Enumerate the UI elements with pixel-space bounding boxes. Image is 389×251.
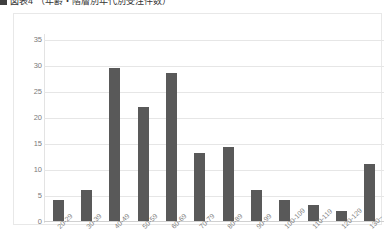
y-axis-tick-label: 15: [16, 140, 42, 148]
gridline: [44, 170, 384, 171]
gridline: [44, 144, 384, 145]
plot-frame: 05101520253035 20-2930-3940-4950-5960-69…: [13, 13, 382, 225]
chart-title: 図表4 （年齢・階層別年代別受注件数）: [0, 0, 389, 7]
chart-figure: 図表4 （年齢・階層別年代別受注件数） 05101520253035 20-29…: [0, 0, 389, 251]
bar: [109, 68, 120, 221]
bar: [251, 190, 262, 221]
bar: [194, 153, 205, 221]
y-axis-tick-label: 10: [16, 166, 42, 174]
bar: [138, 107, 149, 221]
gridline: [44, 92, 384, 93]
gridline: [44, 66, 384, 67]
bar: [364, 164, 375, 221]
chart-title-text: 図表4 （年齢・階層別年代別受注件数）: [10, 0, 171, 6]
plot-area: [44, 40, 384, 222]
gridline: [44, 118, 384, 119]
y-axis-tick-labels: 05101520253035: [14, 14, 42, 226]
y-axis-tick-label: 5: [16, 192, 42, 200]
y-axis-tick-label: 30: [16, 62, 42, 70]
bar: [223, 147, 234, 221]
gridline: [44, 196, 384, 197]
y-axis-tick-label: 25: [16, 88, 42, 96]
square-bullet-icon: [0, 0, 7, 5]
y-axis-tick-label: 35: [16, 36, 42, 44]
bar: [166, 73, 177, 221]
y-axis-tick-label: 0: [16, 218, 42, 226]
y-axis-tick-label: 20: [16, 114, 42, 122]
gridline: [44, 40, 384, 41]
x-axis-tick-labels: 20-2930-3940-4950-5960-6970-7980-8990-99…: [44, 223, 384, 251]
bar: [81, 190, 92, 221]
